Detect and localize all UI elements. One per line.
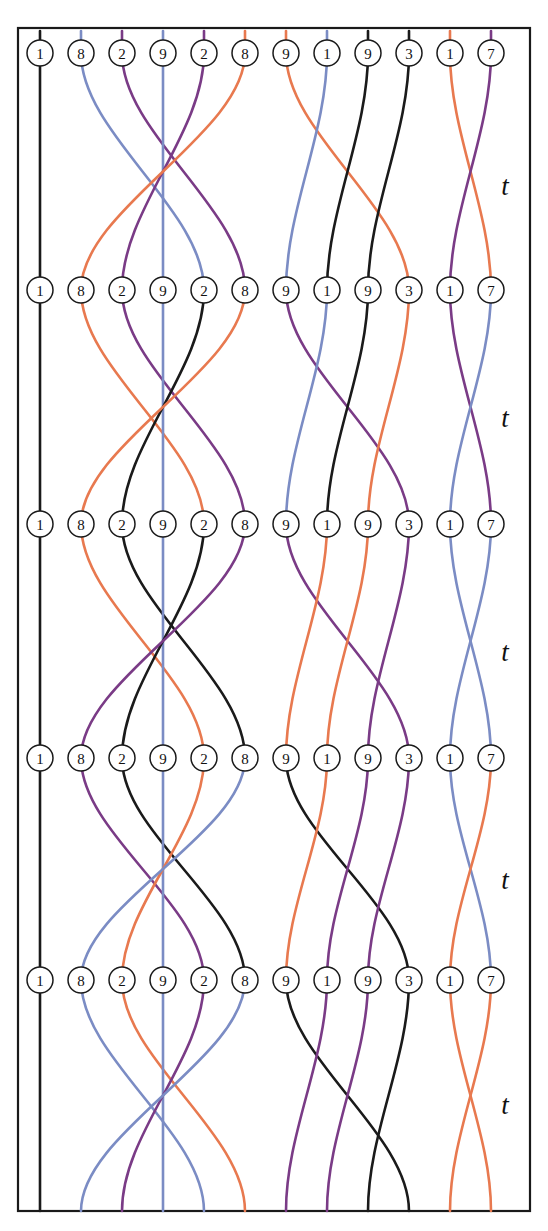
node-label: 8 <box>77 283 85 299</box>
braid-node[interactable]: 1 <box>27 967 53 993</box>
braid-node[interactable]: 3 <box>396 511 422 537</box>
braid-node[interactable]: 1 <box>437 40 463 66</box>
braid-node[interactable]: 1 <box>437 277 463 303</box>
braid-node[interactable]: 2 <box>191 40 217 66</box>
node-label: 1 <box>36 751 44 767</box>
braid-node[interactable]: 9 <box>355 745 381 771</box>
braid-node[interactable]: 9 <box>273 967 299 993</box>
braid-node[interactable]: 8 <box>68 40 94 66</box>
braid-node[interactable]: 3 <box>396 277 422 303</box>
braid-node[interactable]: 8 <box>232 745 258 771</box>
node-label: 9 <box>159 751 167 767</box>
node-label: 8 <box>241 751 249 767</box>
braid-node[interactable]: 9 <box>355 40 381 66</box>
node-label: 3 <box>405 46 413 62</box>
braid-node[interactable]: 8 <box>68 511 94 537</box>
node-label: 9 <box>282 517 290 533</box>
braid-strand <box>327 758 368 980</box>
braid-node[interactable]: 7 <box>478 40 504 66</box>
braid-node[interactable]: 1 <box>314 511 340 537</box>
node-label: 9 <box>159 283 167 299</box>
braid-node[interactable]: 3 <box>396 40 422 66</box>
braid-strand <box>450 524 491 758</box>
node-label: 1 <box>323 46 331 62</box>
braid-node[interactable]: 1 <box>437 745 463 771</box>
braid-node[interactable]: 3 <box>396 745 422 771</box>
braid-node[interactable]: 1 <box>27 745 53 771</box>
braid-node[interactable]: 2 <box>191 967 217 993</box>
node-label: 9 <box>159 973 167 989</box>
node-label: 9 <box>364 283 372 299</box>
braid-node[interactable]: 2 <box>191 511 217 537</box>
braid-strand <box>81 980 204 1211</box>
braid-strand <box>122 758 245 980</box>
braid-node[interactable]: 1 <box>314 277 340 303</box>
braid-strand <box>122 53 245 290</box>
braid-strand <box>450 758 491 980</box>
node-label: 7 <box>487 517 495 533</box>
braid-node[interactable]: 1 <box>314 967 340 993</box>
braid-node[interactable]: 9 <box>273 745 299 771</box>
braid-node[interactable]: 7 <box>478 277 504 303</box>
node-label: 1 <box>36 973 44 989</box>
braid-node[interactable]: 9 <box>150 967 176 993</box>
braid-node[interactable]: 2 <box>109 967 135 993</box>
braid-node[interactable]: 9 <box>150 745 176 771</box>
node-label: 1 <box>36 517 44 533</box>
braid-node[interactable]: 2 <box>109 511 135 537</box>
node-label: 1 <box>446 283 454 299</box>
node-label: 3 <box>405 283 413 299</box>
braid-node[interactable]: 8 <box>232 40 258 66</box>
braid-node[interactable]: 2 <box>109 40 135 66</box>
node-label: 1 <box>323 751 331 767</box>
braid-node[interactable]: 2 <box>191 277 217 303</box>
braid-node[interactable]: 1 <box>314 745 340 771</box>
braid-node[interactable]: 9 <box>150 511 176 537</box>
braid-node[interactable]: 2 <box>109 745 135 771</box>
node-label: 2 <box>118 751 126 767</box>
braid-node[interactable]: 1 <box>314 40 340 66</box>
node-label: 3 <box>405 517 413 533</box>
braid-node[interactable]: 3 <box>396 967 422 993</box>
braid-node[interactable]: 8 <box>232 277 258 303</box>
node-label: 9 <box>364 517 372 533</box>
node-label: 1 <box>323 517 331 533</box>
braid-node[interactable]: 8 <box>68 967 94 993</box>
figure-frame <box>18 28 530 1211</box>
braid-node[interactable]: 9 <box>150 40 176 66</box>
time-axis-label: t <box>501 403 510 433</box>
braid-node[interactable]: 8 <box>68 277 94 303</box>
node-label: 8 <box>241 517 249 533</box>
braid-node[interactable]: 2 <box>191 745 217 771</box>
braid-node[interactable]: 8 <box>68 745 94 771</box>
braid-node[interactable]: 9 <box>273 40 299 66</box>
braid-node[interactable]: 9 <box>273 277 299 303</box>
node-label: 9 <box>282 46 290 62</box>
braid-node[interactable]: 9 <box>273 511 299 537</box>
braid-node[interactable]: 1 <box>27 511 53 537</box>
node-label: 3 <box>405 973 413 989</box>
node-label: 2 <box>118 46 126 62</box>
node-label: 8 <box>77 517 85 533</box>
braid-node[interactable]: 9 <box>355 967 381 993</box>
braid-strand <box>327 290 368 524</box>
braid-node[interactable]: 9 <box>150 277 176 303</box>
braid-node[interactable]: 1 <box>437 967 463 993</box>
braid-node[interactable]: 1 <box>27 277 53 303</box>
braid-node[interactable]: 7 <box>478 511 504 537</box>
node-label: 7 <box>487 46 495 62</box>
braid-node[interactable]: 2 <box>109 277 135 303</box>
node-label: 8 <box>77 751 85 767</box>
braid-node[interactable]: 9 <box>355 277 381 303</box>
strand-layer <box>40 31 491 1211</box>
braid-node[interactable]: 8 <box>232 511 258 537</box>
braid-node[interactable]: 1 <box>27 40 53 66</box>
node-label: 3 <box>405 751 413 767</box>
braid-node[interactable]: 8 <box>232 967 258 993</box>
node-label: 8 <box>77 46 85 62</box>
braid-node[interactable]: 7 <box>478 967 504 993</box>
braid-node[interactable]: 7 <box>478 745 504 771</box>
braid-node[interactable]: 1 <box>437 511 463 537</box>
braid-node[interactable]: 9 <box>355 511 381 537</box>
braid-segment <box>40 290 491 524</box>
